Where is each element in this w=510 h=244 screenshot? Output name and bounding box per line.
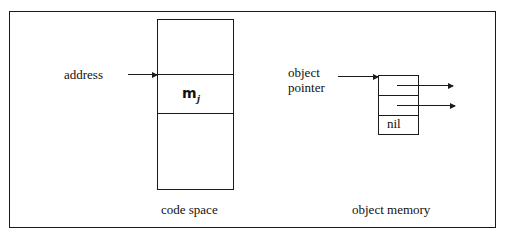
address-label: address — [64, 68, 103, 83]
method-label-subscript: j — [197, 92, 200, 104]
code-space-caption: code space — [161, 203, 218, 218]
address-pointer-arrow — [128, 74, 157, 75]
code-space-divider-upper — [157, 74, 234, 75]
nil-label: nil — [387, 117, 401, 132]
slot-2-outgoing-arrow — [397, 105, 455, 106]
code-space-divider-lower — [157, 113, 234, 114]
object-pointer-label-line2: pointer — [288, 80, 325, 95]
object-record-divider-upper — [378, 95, 419, 96]
slot-1-outgoing-arrow — [397, 85, 453, 86]
figure-border — [9, 11, 496, 228]
code-space-box — [157, 19, 234, 190]
method-label: mj — [182, 86, 200, 104]
object-pointer-label: objectpointer — [288, 66, 325, 95]
object-memory-caption: object memory — [352, 203, 430, 218]
object-pointer-arrow — [338, 76, 378, 77]
memory-layout-diagram: address mj code space objectpointer nil … — [0, 0, 510, 244]
object-pointer-label-line1: object — [288, 65, 320, 80]
method-label-base: m — [182, 85, 197, 101]
